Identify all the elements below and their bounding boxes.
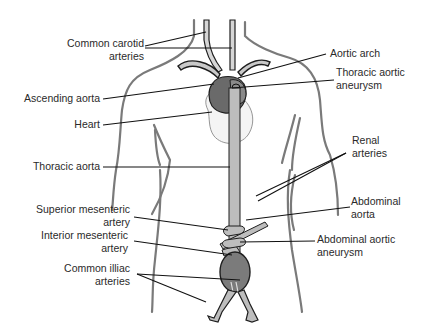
label-aortic-arch: Aortic arch — [330, 47, 380, 60]
label-line: aneurysm — [317, 246, 395, 259]
label-line: arteries — [40, 275, 130, 288]
label-line: arteries — [40, 50, 144, 63]
label-line: Heart — [40, 118, 100, 131]
label-abdominal-aorta: Abdominal aorta — [351, 195, 401, 221]
label-common-illiac-arteries: Common illiac arteries — [40, 262, 130, 288]
label-superior-mesenteric-artery: Superior mesenteric artery — [20, 203, 130, 229]
label-line: Thoracic aorta — [10, 160, 100, 173]
label-line: Common illiac — [40, 262, 130, 275]
label-line: Ascending aorta — [10, 92, 100, 105]
label-heart: Heart — [40, 118, 100, 131]
label-interior-mesenteric-artery: Interior mesenteric artery — [20, 229, 128, 255]
label-line: Aortic arch — [330, 47, 380, 60]
label-abdominal-aortic-aneurysm: Abdominal aortic aneurysm — [317, 233, 395, 259]
label-line: artery — [20, 216, 130, 229]
label-line: Abdominal — [351, 195, 401, 208]
label-line: artery — [20, 242, 128, 255]
label-line: Abdominal aortic — [317, 233, 395, 246]
label-line: Superior mesenteric — [20, 203, 130, 216]
label-line: aorta — [351, 208, 401, 221]
label-line: Common carotid — [40, 37, 144, 50]
iliac-arteries-shape — [208, 290, 258, 322]
label-common-carotid-arteries: Common carotid arteries — [40, 37, 144, 63]
label-ascending-aorta: Ascending aorta — [10, 92, 100, 105]
label-line: Renal — [352, 134, 387, 147]
label-line: arteries — [352, 147, 387, 160]
label-line: Interior mesenteric — [20, 229, 128, 242]
label-line: Thoracic aortic — [336, 66, 405, 79]
aortic-arch — [178, 60, 270, 78]
abdominal-aortic-aneurysm-shape — [220, 252, 250, 292]
label-thoracic-aorta: Thoracic aorta — [10, 160, 100, 173]
label-renal-arteries: Renal arteries — [352, 134, 387, 160]
label-thoracic-aortic-aneurysm: Thoracic aortic aneurysm — [336, 66, 405, 92]
label-line: aneurysm — [336, 79, 405, 92]
